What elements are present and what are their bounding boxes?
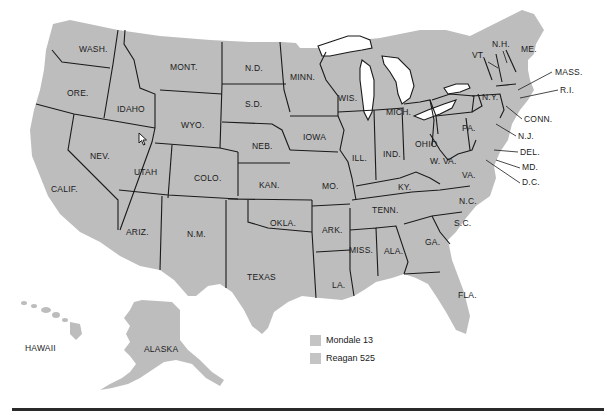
- state-label-wash: WASH.: [79, 44, 108, 54]
- state-label-kan: KAN.: [259, 180, 280, 190]
- state-label-sd: S.D.: [245, 99, 262, 109]
- state-label-hawaii: HAWAII: [25, 343, 56, 353]
- state-label-ind: IND.: [383, 149, 401, 159]
- state-label-ky: KY.: [398, 182, 411, 192]
- legend-label-reagan: Reagan 525: [326, 353, 375, 363]
- state-label-neb: NEB.: [252, 141, 273, 151]
- mouse-pointer-icon: [138, 132, 148, 150]
- state-label-ny: N.Y.: [482, 92, 498, 102]
- state-label-okla: OKLA.: [270, 218, 296, 228]
- state-label-iowa: IOWA: [303, 132, 326, 142]
- legend-item-reagan: Reagan 525: [310, 349, 375, 367]
- state-label-mo: MO.: [322, 181, 339, 191]
- state-label-dc: D.C.: [522, 177, 540, 187]
- legend-label-mondale: Mondale 13: [326, 335, 373, 345]
- state-label-wis: WIS.: [338, 93, 357, 103]
- state-label-va: VA.: [462, 170, 476, 180]
- state-label-colo: COLO.: [194, 173, 221, 183]
- state-label-miss: MISS.: [349, 245, 373, 255]
- state-label-ri: R.I.: [560, 85, 574, 95]
- state-label-minn: MINN.: [290, 72, 315, 82]
- state-label-sc: S.C.: [454, 218, 471, 228]
- state-label-md: MD.: [522, 162, 538, 172]
- state-label-wyo: WYO.: [181, 120, 204, 130]
- state-label-ore: ORE.: [67, 88, 89, 98]
- state-label-ga: GA.: [425, 237, 440, 247]
- state-label-vt: VT.: [472, 50, 485, 60]
- state-label-tenn: TENN.: [372, 205, 399, 215]
- state-label-alaska: ALASKA: [144, 344, 178, 354]
- legend: Mondale 13 Reagan 525: [310, 331, 375, 367]
- us-electoral-map: WASH.ORE.CALIF.NEV.IDAHOMONT.WYO.UTAHCOL…: [0, 0, 604, 414]
- hawaii-islands: [21, 301, 82, 340]
- state-label-ohio: OHIO: [415, 139, 438, 149]
- state-label-fla: FLA.: [458, 290, 477, 300]
- legend-item-mondale: Mondale 13: [310, 331, 375, 349]
- state-label-mont: MONT.: [170, 62, 197, 72]
- state-label-la: LA.: [332, 280, 345, 290]
- state-label-ill: ILL.: [352, 153, 367, 163]
- bottom-rule: [12, 408, 604, 411]
- state-label-ariz: ARIZ.: [126, 227, 149, 237]
- state-label-pa: PA.: [462, 123, 476, 133]
- reagan-swatch: [310, 353, 321, 364]
- state-label-ark: ARK.: [322, 225, 343, 235]
- state-label-nc: N.C.: [459, 196, 477, 206]
- state-label-mich: MICH.: [386, 107, 411, 117]
- state-label-calif: CALIF.: [51, 184, 78, 194]
- state-label-nev: NEV.: [90, 151, 110, 161]
- state-label-nd: N.D.: [245, 63, 263, 73]
- state-label-ala: ALA.: [384, 246, 403, 256]
- state-label-idaho: IDAHO: [117, 104, 145, 114]
- state-label-nh: N.H.: [492, 39, 510, 49]
- state-label-nm: N.M.: [187, 229, 206, 239]
- state-label-mass: MASS.: [555, 67, 582, 77]
- state-label-utah: UTAH: [134, 167, 157, 177]
- state-label-me: ME.: [521, 44, 537, 54]
- state-label-nj: N.J.: [518, 131, 534, 141]
- state-label-texas: TEXAS: [247, 272, 276, 282]
- mondale-swatch: [310, 335, 321, 346]
- state-label-del: DEL.: [520, 147, 540, 157]
- state-label-conn: CONN.: [524, 114, 552, 124]
- state-label-wva: W. VA.: [430, 156, 457, 166]
